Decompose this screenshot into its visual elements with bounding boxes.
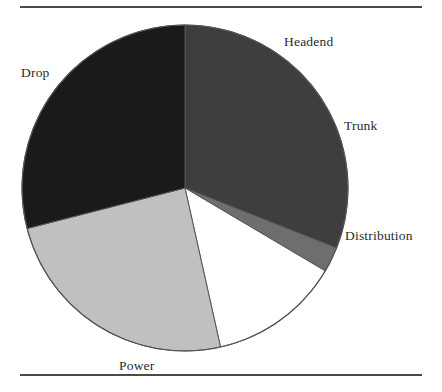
pie-slices-group [22,25,348,351]
slice-label-distribution: Distribution [345,228,413,244]
slice-label-power: Power [119,358,155,374]
slice-label-headend: Headend [284,34,333,50]
pie-chart-figure: Headend Trunk Distribution Power Drop [0,0,442,392]
pie-chart-graphic [0,0,442,392]
slice-label-trunk: Trunk [344,118,378,134]
bottom-rule-divider [20,374,422,376]
slice-label-drop: Drop [21,65,50,81]
